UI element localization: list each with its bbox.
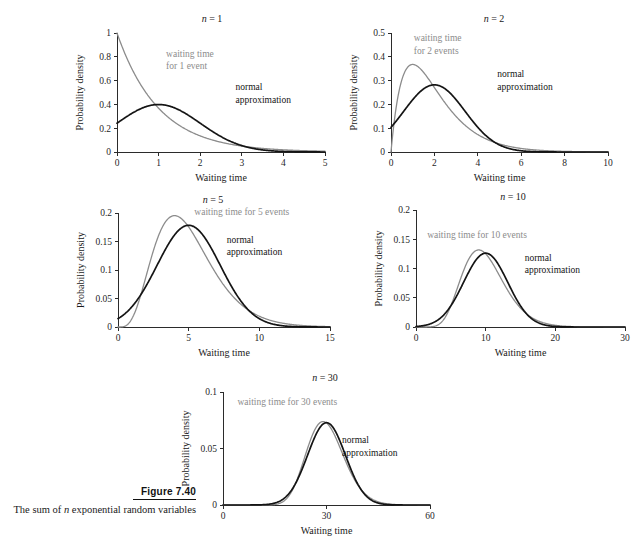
y-tick-label: 0.6 (99, 76, 111, 86)
x-tick-label: 0 (389, 158, 394, 168)
chart-panel-panel-n2: 00.10.20.30.40.50246810Waiting timeProba… (331, 3, 622, 188)
panel-title: n = 30 (312, 372, 338, 383)
x-tick-label: 4 (281, 158, 286, 168)
caption-text-line-2: variables (158, 504, 196, 515)
y-tick-label: 0.1 (100, 265, 112, 275)
y-tick-label: 0.05 (95, 294, 112, 304)
annotation-normal-approximation-line-2: approximation (525, 265, 581, 275)
panel-title: n = 2 (484, 13, 505, 24)
y-axis-title: Probability density (348, 55, 359, 131)
x-tick-label: 10 (255, 333, 265, 343)
y-tick-label: 0.2 (373, 100, 385, 110)
curve-waiting-time (117, 33, 325, 151)
curve-normal-approximation (117, 105, 325, 152)
y-axis-title: Probability density (373, 231, 384, 307)
x-tick-label: 0 (221, 511, 226, 521)
axis-lines (223, 392, 430, 505)
y-tick-label: 0.1 (398, 264, 410, 274)
y-tick-label: 0.05 (393, 293, 410, 303)
caption-text-part-2: exponential random (69, 504, 155, 515)
y-tick-label: 0.1 (373, 124, 385, 134)
y-tick-label: 0.2 (99, 124, 111, 134)
figure-caption: Figure 7.40 The sum of n exponential ran… (6, 486, 196, 516)
y-tick-label: 0.5 (373, 28, 385, 38)
curve-normal-approximation (391, 85, 608, 152)
x-tick-label: 2 (432, 158, 437, 168)
figure-container: 00.20.40.60.81012345Waiting timeProbabil… (0, 0, 634, 560)
caption-text-part-1: The sum of (13, 504, 63, 515)
x-tick-label: 0 (115, 158, 120, 168)
annotation-normal-approximation-line-1: normal (236, 82, 263, 92)
y-tick-label: 0.1 (205, 387, 217, 397)
x-tick-label: 60 (425, 511, 435, 521)
x-axis-title: Waiting time (301, 525, 353, 536)
x-tick-label: 0 (116, 333, 121, 343)
annotation-waiting-time-line-1: waiting time for 30 events (237, 397, 337, 407)
x-tick-label: 6 (519, 158, 524, 168)
x-tick-label: 5 (186, 333, 191, 343)
x-tick-label: 10 (603, 158, 613, 168)
y-tick-label: 0.3 (373, 76, 385, 86)
y-axis-title: Probability density (180, 411, 191, 487)
annotation-waiting-time-line-2: for 2 events (414, 46, 459, 56)
panel-title: n = 10 (500, 191, 526, 202)
curve-normal-approximation (118, 225, 330, 327)
annotation-waiting-time-line-1: waiting time for 5 events (194, 207, 289, 217)
y-axis-title: Probability density (74, 55, 85, 131)
annotation-normal-approximation-line-2: approximation (342, 448, 398, 458)
annotation-normal-approximation-line-2: approximation (497, 82, 553, 92)
x-tick-label: 15 (325, 333, 335, 343)
annotation-waiting-time-line-2: for 1 event (166, 61, 208, 71)
y-tick-label: 0.15 (95, 237, 112, 247)
x-tick-label: 30 (620, 333, 630, 343)
y-tick-label: 0.2 (398, 205, 410, 215)
x-tick-label: 3 (239, 158, 244, 168)
x-axis-title: Waiting time (495, 347, 547, 358)
chart-panel-panel-n1: 00.20.40.60.81012345Waiting timeProbabil… (57, 3, 339, 188)
annotation-normal-approximation-line-2: approximation (227, 247, 283, 257)
x-tick-label: 2 (198, 158, 203, 168)
x-tick-label: 30 (322, 511, 332, 521)
annotation-waiting-time-line-1: waiting time for 10 events (427, 230, 527, 240)
annotation-normal-approximation-line-1: normal (342, 435, 369, 445)
x-tick-label: 1 (156, 158, 161, 168)
y-tick-label: 0.8 (99, 52, 111, 62)
chart-panel-panel-n5: 00.050.10.150.2051015Waiting timeProbabi… (58, 183, 344, 363)
y-tick-label: 0 (405, 322, 410, 332)
x-axis-title: Waiting time (198, 347, 250, 358)
figure-number: Figure 7.40 (6, 486, 196, 497)
panel-title: n = 1 (202, 13, 223, 24)
curve-normal-approximation (223, 423, 430, 505)
annotation-normal-approximation-line-1: normal (497, 69, 524, 79)
x-tick-label: 20 (551, 333, 561, 343)
y-tick-label: 0 (380, 147, 385, 157)
caption-text: The sum of n exponential random variable… (6, 503, 196, 516)
y-tick-label: 0.05 (200, 444, 217, 454)
annotation-normal-approximation-line-1: normal (525, 253, 552, 263)
annotation-waiting-time-line-1: waiting time (166, 49, 214, 59)
y-axis-title: Probability density (75, 232, 86, 308)
x-axis-title: Waiting time (195, 172, 247, 183)
curve-waiting-time (223, 422, 430, 505)
chart-panel-panel-n10: 00.050.10.150.20102030Waiting timeProbab… (356, 180, 634, 363)
y-tick-label: 0 (107, 322, 112, 332)
curve-normal-approximation (416, 253, 625, 327)
axis-lines (118, 213, 330, 327)
annotation-waiting-time-line-1: waiting time (414, 33, 462, 43)
panel-title: n = 5 (203, 194, 224, 205)
y-tick-label: 0 (212, 500, 217, 510)
y-tick-label: 0.4 (373, 52, 385, 62)
annotation-normal-approximation-line-1: normal (227, 235, 254, 245)
x-tick-label: 0 (414, 333, 419, 343)
y-tick-label: 0 (106, 147, 111, 157)
x-tick-label: 8 (562, 158, 567, 168)
x-tick-label: 5 (323, 158, 328, 168)
annotation-normal-approximation-line-2: approximation (236, 95, 292, 105)
x-tick-label: 4 (475, 158, 480, 168)
y-tick-label: 0.4 (99, 100, 111, 110)
x-tick-label: 10 (481, 333, 491, 343)
y-tick-label: 1 (106, 28, 111, 38)
y-tick-label: 0.2 (100, 208, 112, 218)
axis-lines (117, 33, 325, 152)
caption-divider (133, 499, 196, 500)
